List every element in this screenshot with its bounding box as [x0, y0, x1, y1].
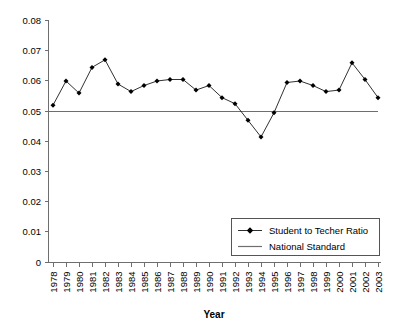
legend-label: National Standard [269, 241, 345, 252]
y-tick-label: 0.01 [23, 226, 42, 237]
x-tick-label: 1989 [191, 272, 202, 293]
x-tick-label: 1979 [61, 272, 72, 293]
x-tick-label: 1978 [48, 272, 59, 293]
line-chart: 0.08 0.07 0.06 0.05 0.04 0.03 0.02 0.01 … [0, 0, 400, 329]
y-tick-label: 0.06 [23, 75, 42, 86]
x-tick-label: 1993 [243, 272, 254, 293]
y-tick-label: 0.07 [23, 45, 42, 56]
x-tick-label: 1984 [126, 272, 137, 293]
x-tick-label: 1986 [152, 272, 163, 293]
x-tick-label: 2001 [347, 272, 358, 293]
x-tick-label: 1998 [308, 272, 319, 293]
x-tick-label: 1988 [178, 272, 189, 293]
x-tick-label: 1985 [139, 272, 150, 293]
x-tick-label: 1983 [113, 272, 124, 293]
y-tick-label: 0.04 [23, 136, 42, 147]
chart-legend: Student to Techer Ratio National Standar… [232, 219, 380, 256]
y-tick-label: 0.05 [23, 106, 42, 117]
chart-canvas: 0.08 0.07 0.06 0.05 0.04 0.03 0.02 0.01 … [0, 0, 400, 329]
x-tick-label: 2003 [373, 272, 384, 293]
x-tick-label: 2000 [334, 272, 345, 293]
x-tick-label: 1987 [165, 272, 176, 293]
x-tick-label: 1994 [256, 272, 267, 293]
x-tick-label: 1999 [321, 272, 332, 293]
x-tick-label: 1990 [204, 272, 215, 293]
x-tick-label: 1991 [217, 272, 228, 293]
y-tick-label: 0.02 [23, 196, 42, 207]
legend-label: Student to Techer Ratio [269, 225, 368, 236]
x-tick-label: 1980 [74, 272, 85, 293]
x-tick-label: 1982 [100, 272, 111, 293]
x-tick-label: 1996 [282, 272, 293, 293]
x-tick-label: 1997 [295, 272, 306, 293]
y-tick-label: 0.03 [23, 166, 42, 177]
x-tick-label: 1992 [230, 272, 241, 293]
y-axis-tick-labels: 0.08 0.07 0.06 0.05 0.04 0.03 0.02 0.01 … [23, 15, 42, 268]
x-tick-label: 2002 [360, 272, 371, 293]
x-axis-title: Year [203, 309, 224, 320]
y-tick-label: 0.08 [23, 15, 42, 26]
x-tick-label: 1981 [87, 272, 98, 293]
y-tick-label: 0 [36, 257, 41, 268]
x-tick-label: 1995 [269, 272, 280, 293]
